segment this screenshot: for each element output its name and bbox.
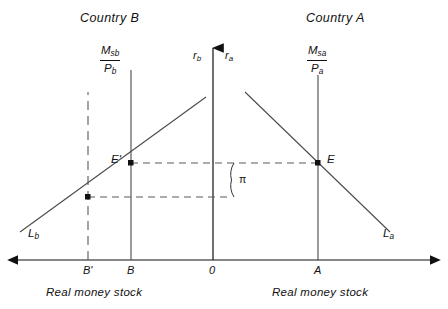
pi-gap-label: π — [239, 174, 246, 185]
axis-label-rb: rb — [193, 50, 201, 63]
equilibrium-marker-e-prime — [128, 160, 134, 166]
rb-sub: b — [197, 54, 201, 63]
equilibrium-marker-e — [315, 160, 321, 166]
ms-a-numerator-sub: sa — [318, 49, 327, 58]
ms-b-numerator: M — [101, 44, 111, 56]
lb-sub: b — [34, 232, 39, 241]
diagram-canvas — [0, 0, 448, 309]
ms-b-denominator: P — [104, 62, 112, 74]
ra-sub: a — [229, 54, 233, 63]
footer-left-real-money-stock: Real money stock — [46, 287, 142, 299]
curve-label-la: La — [383, 228, 394, 241]
equilibrium-marker-b-prime — [85, 194, 91, 200]
heading-country-a: Country A — [306, 12, 365, 25]
la-sub: a — [389, 232, 394, 241]
axis-label-ra: ra — [225, 50, 233, 63]
money-market-diagram: Country B Country A Msb Pb Msa Pa rb ra … — [0, 0, 448, 309]
ms-b-denominator-sub: b — [112, 67, 117, 76]
ms-a-denominator-sub: a — [319, 67, 324, 76]
fraction-bar-b — [100, 60, 120, 61]
heading-country-b: Country B — [80, 12, 139, 25]
fraction-bar-a — [307, 60, 327, 61]
footer-right-real-money-stock: Real money stock — [272, 287, 368, 299]
pi-gap-brace — [231, 163, 234, 197]
x-tick-origin: 0 — [209, 265, 215, 276]
money-supply-label-a: Msa Pa — [307, 44, 327, 77]
equilibrium-label-e-prime: E' — [111, 154, 121, 166]
equilibrium-label-e: E — [327, 154, 335, 166]
x-tick-b-prime: B' — [83, 265, 92, 276]
x-tick-b: B — [127, 265, 134, 276]
curve-label-lb: Lb — [28, 228, 39, 241]
x-tick-a: A — [314, 265, 321, 276]
ms-b-numerator-sub: sb — [111, 49, 120, 58]
money-supply-label-b: Msb Pb — [100, 44, 120, 77]
ms-a-denominator: P — [311, 62, 319, 74]
ms-a-numerator: M — [308, 44, 318, 56]
